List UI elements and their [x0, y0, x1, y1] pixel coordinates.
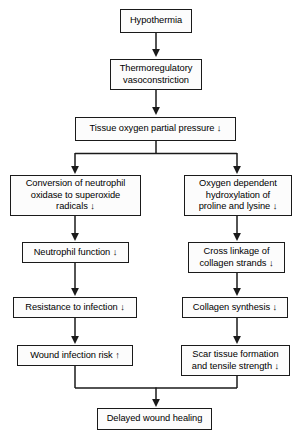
node-resistance-to-infection[interactable]: Resistance to infection ↓: [13, 297, 137, 318]
node-neutrophil-oxidase-conversion-label: Conversion of neutrophil oxidase to supe…: [13, 178, 138, 212]
node-cross-linkage-line-1: Cross linkage of: [191, 246, 282, 257]
node-collagen-synthesis-label: Collagen synthesis ↓: [185, 302, 285, 313]
node-cross-linkage-line-2: collagen strands ↓: [191, 258, 282, 269]
node-cross-linkage-collagen-strands[interactable]: Cross linkage of collagen strands ↓: [188, 242, 285, 273]
node-hydroxylation-line-2: hydroxylation of: [187, 190, 289, 201]
node-hypothermia-label: Hypothermia: [123, 15, 189, 26]
node-vasoconstriction-line-2: vasoconstriction: [113, 75, 199, 86]
node-hydroxylation-line-1: Oxygen dependent: [187, 178, 289, 189]
node-hydroxylation-line-3: proline and lysine ↓: [187, 201, 289, 212]
node-tissue-oxygen-partial-pressure-label: Tissue oxygen partial pressure ↓: [78, 123, 233, 134]
node-oxygen-dependent-hydroxylation-label: Oxygen dependent hydroxylation of prolin…: [187, 178, 289, 212]
node-neutrophil-function-label: Neutrophil function ↓: [25, 247, 126, 258]
node-wound-infection-risk-label: Wound infection risk ↑: [20, 350, 130, 361]
node-resistance-to-infection-label: Resistance to infection ↓: [16, 302, 134, 313]
node-oxidase-line-2: oxidase to superoxide: [13, 190, 138, 201]
node-delayed-wound-healing-label: Delayed wound healing: [100, 413, 209, 424]
node-vasoconstriction-line-1: Thermoregulatory: [113, 63, 199, 74]
flowchart-canvas: Hypothermia Thermoregulatory vasoconstri…: [0, 0, 303, 436]
node-oxygen-dependent-hydroxylation[interactable]: Oxygen dependent hydroxylation of prolin…: [184, 175, 292, 216]
node-thermoregulatory-vasoconstriction[interactable]: Thermoregulatory vasoconstriction: [110, 59, 202, 90]
node-scar-tissue-line-1: Scar tissue formation: [184, 349, 287, 360]
node-scar-tissue-formation-label: Scar tissue formation and tensile streng…: [184, 349, 287, 372]
node-hypothermia[interactable]: Hypothermia: [120, 9, 192, 33]
node-scar-tissue-formation[interactable]: Scar tissue formation and tensile streng…: [181, 345, 290, 376]
node-neutrophil-function[interactable]: Neutrophil function ↓: [22, 242, 129, 263]
node-wound-infection-risk[interactable]: Wound infection risk ↑: [17, 345, 133, 366]
node-cross-linkage-collagen-strands-label: Cross linkage of collagen strands ↓: [191, 246, 282, 269]
node-tissue-oxygen-partial-pressure[interactable]: Tissue oxygen partial pressure ↓: [75, 117, 236, 141]
node-oxidase-line-1: Conversion of neutrophil: [13, 178, 138, 189]
node-scar-tissue-line-2: and tensile strength ↓: [184, 361, 287, 372]
node-neutrophil-oxidase-conversion[interactable]: Conversion of neutrophil oxidase to supe…: [10, 175, 141, 216]
node-oxidase-line-3: radicals ↓: [13, 201, 138, 212]
node-collagen-synthesis[interactable]: Collagen synthesis ↓: [182, 297, 288, 318]
node-delayed-wound-healing[interactable]: Delayed wound healing: [97, 408, 212, 430]
node-thermoregulatory-vasoconstriction-label: Thermoregulatory vasoconstriction: [113, 63, 199, 86]
